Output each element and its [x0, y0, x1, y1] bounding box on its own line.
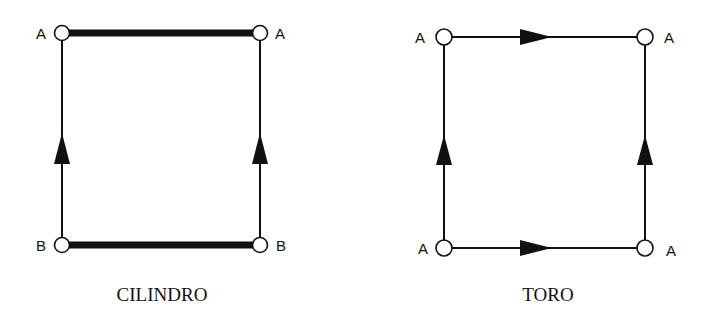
torus-label-bottom-left: A — [418, 240, 428, 257]
torus-label-top-left: A — [415, 29, 425, 46]
cylinder-vertex-bottom-right — [253, 238, 268, 253]
torus-vertex-top-left — [436, 29, 452, 45]
torus-diagram: A A A A TORO — [415, 29, 676, 305]
torus-label-bottom-right: A — [666, 242, 676, 259]
up-arrow-icon — [252, 133, 268, 164]
cylinder-label-top-right: A — [275, 25, 285, 42]
up-arrow-icon — [436, 135, 452, 165]
diagram-canvas: A A B B CILINDRO A A A A TORO — [0, 0, 714, 322]
cylinder-caption: CILINDRO — [117, 284, 208, 305]
torus-vertex-bottom-right — [637, 240, 653, 256]
right-arrow-icon — [520, 240, 552, 256]
right-arrow-icon — [520, 29, 552, 45]
torus-caption: TORO — [522, 284, 573, 305]
cylinder-label-bottom-right: B — [276, 237, 286, 254]
cylinder-label-bottom-left: B — [36, 237, 46, 254]
cylinder-vertex-bottom-left — [55, 238, 70, 253]
up-arrow-icon — [54, 133, 70, 164]
cylinder-vertex-top-right — [253, 26, 268, 41]
torus-label-top-right: A — [664, 29, 674, 46]
up-arrow-icon — [637, 135, 653, 165]
cylinder-label-top-left: A — [36, 25, 46, 42]
torus-vertex-top-right — [637, 29, 653, 45]
cylinder-vertex-top-left — [55, 26, 70, 41]
torus-vertex-bottom-left — [436, 240, 452, 256]
cylinder-diagram: A A B B CILINDRO — [36, 25, 286, 305]
